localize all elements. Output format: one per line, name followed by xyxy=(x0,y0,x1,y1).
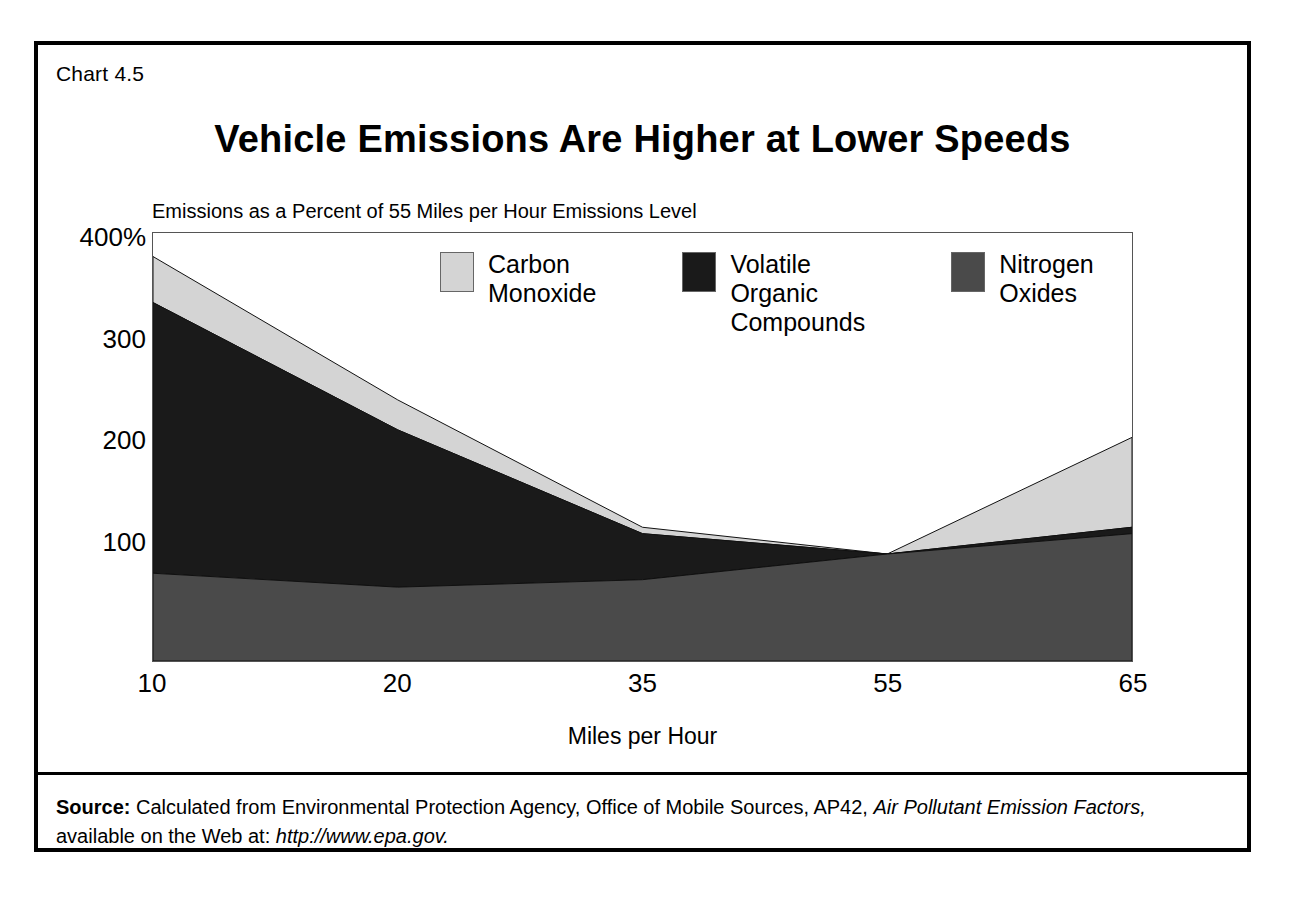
source-note: Source: Calculated from Environmental Pr… xyxy=(56,793,1196,851)
legend-label-volatile-organic-compounds: Volatile Organic Compounds xyxy=(730,250,865,337)
y-tick-400: 400% xyxy=(58,222,146,253)
x-tick-10: 10 xyxy=(107,668,197,699)
legend-item-volatile-organic-compounds: Volatile Organic Compounds xyxy=(682,250,865,337)
x-tick-35: 35 xyxy=(598,668,688,699)
legend-label-carbon-monoxide: Carbon Monoxide xyxy=(488,250,596,308)
source-label: Source: xyxy=(56,796,130,818)
source-italic-1: Air Pollutant Emission Factors, xyxy=(873,796,1145,818)
source-italic-2: http://www.epa.gov. xyxy=(276,825,449,847)
page-title: Vehicle Emissions Are Higher at Lower Sp… xyxy=(34,118,1251,161)
chart-legend: Carbon Monoxide Volatile Organic Compoun… xyxy=(440,250,1094,337)
legend-item-carbon-monoxide: Carbon Monoxide xyxy=(440,250,596,308)
legend-label-nitrogen-oxides: Nitrogen Oxides xyxy=(999,250,1094,308)
y-tick-200: 200 xyxy=(58,425,146,456)
source-text-1: Calculated from Environmental Protection… xyxy=(130,796,873,818)
x-axis-title: Miles per Hour xyxy=(152,723,1133,750)
legend-swatch-volatile-organic-compounds xyxy=(682,252,716,292)
chart-page: Chart 4.5 Vehicle Emissions Are Higher a… xyxy=(0,0,1289,923)
x-tick-20: 20 xyxy=(352,668,442,699)
x-tick-55: 55 xyxy=(843,668,933,699)
legend-item-nitrogen-oxides: Nitrogen Oxides xyxy=(951,250,1094,308)
source-text-2: available on the Web at: xyxy=(56,825,276,847)
source-divider xyxy=(38,772,1247,775)
chart-number: Chart 4.5 xyxy=(56,62,144,86)
y-tick-100: 100 xyxy=(58,527,146,558)
chart-subtitle: Emissions as a Percent of 55 Miles per H… xyxy=(152,200,697,223)
legend-swatch-carbon-monoxide xyxy=(440,252,474,292)
y-tick-300: 300 xyxy=(58,324,146,355)
legend-swatch-nitrogen-oxides xyxy=(951,252,985,292)
x-tick-65: 65 xyxy=(1088,668,1178,699)
